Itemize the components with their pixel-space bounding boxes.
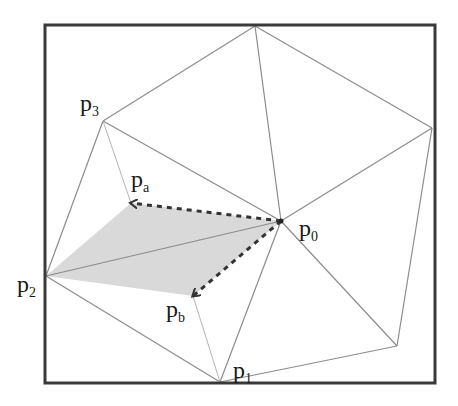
edge-right-p0 <box>281 128 432 221</box>
edge-right-bottom_right <box>397 128 432 346</box>
edge-top-p0 <box>255 26 281 221</box>
edge-pb-p1 <box>193 296 220 382</box>
shaded-region <box>46 203 281 296</box>
label-p1: p1 <box>233 357 252 386</box>
vertex-p0-dot <box>279 219 284 224</box>
label-pb: pb <box>166 296 185 325</box>
edge-p3-pa <box>103 121 131 203</box>
triangulation-diagram: p3 pa p0 p2 pb p1 <box>0 0 458 406</box>
label-p0: p0 <box>299 215 318 244</box>
label-p3: p3 <box>80 90 99 119</box>
label-pa: pa <box>131 166 150 195</box>
label-p2: p2 <box>17 271 36 300</box>
edge-top-p3 <box>103 26 255 121</box>
triangulation-edges <box>46 26 432 382</box>
edge-top-right <box>255 26 432 128</box>
